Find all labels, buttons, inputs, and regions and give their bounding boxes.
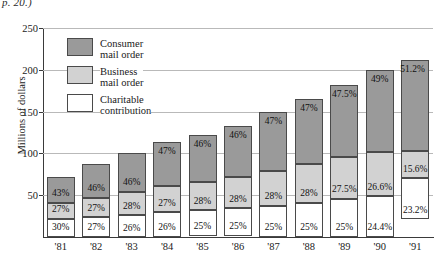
x-axis-tick-label: '91 [398,241,433,252]
legend-item-charity: Charitablecontribution [67,94,202,116]
bar-84: 47%27%26% [153,142,181,237]
legend-label: Charitablecontribution [100,94,151,116]
bar-segment-label: 25% [336,223,353,233]
bar-89: 47.5%27.5%25% [330,85,358,237]
bar-segment-charity: 26% [118,215,146,237]
bar-segment-consumer: 46% [189,135,217,182]
bar-segment-label: 24.4% [368,223,393,233]
chart-figure: p. 20.) Millions of dollars 501001502002… [0,0,446,264]
bar-segment-label: 26.6% [368,183,393,193]
x-axis-line [43,237,434,238]
bar-90: 49%26.6%24.4% [366,70,394,237]
bar-segment-charity: 23.2% [401,178,429,219]
bar-segment-label: 30% [52,223,69,233]
x-axis-tick-label: '83 [114,241,149,252]
bar-segment-label: 27% [87,204,104,214]
legend-label-line1: Consumer [100,38,143,49]
bar-segment-consumer: 46% [82,164,110,197]
legend-swatch-charity [67,94,93,112]
bar-segment-business: 27% [47,203,75,219]
bar-segment-label: 43% [52,189,69,199]
legend-label-line1: Business [100,66,143,77]
bar-81: 43%27%30% [47,177,75,237]
bar-segment-label: 46% [123,178,140,188]
x-axis-tick-label: '86 [220,241,255,252]
bar-83: 46%28%26% [118,153,146,237]
bar-segment-label: 27% [158,199,175,209]
bar-segment-consumer: 46% [118,153,146,191]
legend-label-line2: mail order [100,49,143,60]
y-axis-tick-label: 250 [22,23,38,34]
bar-segment-business: 28% [295,164,323,203]
legend-swatch-business [67,66,93,84]
bar-segment-business: 28% [259,171,287,206]
bar-segment-label: 27.5% [332,185,357,195]
y-axis-tick-label: 100 [22,148,38,159]
bar-segment-label: 25% [229,222,246,232]
bar-segment-label: 25% [265,223,282,233]
bar-91: 51.2%15.6%23.2% [401,60,429,237]
bar-segment-label: 28% [123,202,140,212]
legend-swatch-consumer [67,38,93,56]
bar-segment-label: 47% [158,147,175,157]
bar-segment-label: 28% [229,195,246,205]
bar-segment-charity: 30% [47,219,75,237]
bar-segment-label: 28% [194,197,211,207]
bar-segment-consumer: 47.5% [330,85,358,157]
bar-segment-label: 26% [123,224,140,234]
bar-segment-label: 26% [158,223,175,233]
bar-segment-charity: 24.4% [366,196,394,237]
y-axis-tick-label: 200 [22,64,38,75]
bar-segment-label: 15.6% [403,165,428,175]
legend-item-consumer: Consumermail order [67,38,202,60]
bar-segment-charity: 25% [189,210,217,235]
bar-segment-consumer: 47% [259,112,287,171]
bar-segment-business: 15.6% [401,151,429,179]
bar-segment-business: 28% [224,177,252,208]
y-axis-tick-label: 50 [28,190,39,201]
bar-segment-label: 25% [300,223,317,233]
bar-segment-label: 47% [265,117,282,127]
bar-segment-label: 28% [300,189,317,199]
legend-label-line2: contribution [100,105,151,116]
bar-segment-charity: 25% [259,206,287,237]
bar-segment-business: 27% [153,186,181,212]
bar-segment-business: 27% [82,198,110,218]
bar-segment-business: 26.6% [366,152,394,196]
chart-legend: Consumermail orderBusinessmail orderChar… [67,38,202,122]
x-axis-tick-label: '81 [43,241,78,252]
figure-caption: p. 20.) [2,0,32,8]
bar-segment-consumer: 43% [47,177,75,203]
x-axis-tick-label: '87 [256,241,291,252]
bar-segment-label: 46% [229,131,246,141]
x-axis-tick-labels: '81'82'83'84'85'86'87'88'89'90'91 [43,241,433,261]
x-axis-tick-label: '84 [149,241,184,252]
bar-segment-label: 47.5% [332,90,357,100]
x-axis-tick-label: '89 [327,241,362,252]
legend-label-line1: Charitable [100,94,151,105]
legend-item-business: Businessmail order [67,66,202,88]
bar-88: 47%28%25% [295,99,323,237]
legend-label-line2: mail order [100,77,143,88]
y-axis-tick-label: 150 [22,106,38,117]
bar-segment-label: 27% [52,205,69,215]
legend-label: Businessmail order [100,66,143,88]
bar-segment-charity: 26% [153,212,181,237]
bar-segment-charity: 27% [82,217,110,237]
bar-segment-business: 28% [189,182,217,211]
bar-segment-label: 46% [87,184,104,194]
bar-segment-charity: 25% [295,203,323,237]
bar-segment-consumer: 51.2% [401,60,429,151]
bar-segment-label: 51.2% [400,65,425,75]
bar-segment-label: 27% [87,223,104,233]
x-axis-tick-label: '88 [291,241,326,252]
bar-segment-label: 47% [300,104,317,114]
bar-85: 46%28%25% [189,135,217,237]
bar-82: 46%27%27% [82,164,110,237]
bar-segment-charity: 25% [224,208,252,236]
bar-segment-business: 27.5% [330,157,358,199]
bar-86: 46%28%25% [224,126,252,237]
bar-segment-label: 49% [371,75,388,85]
bar-segment-charity: 25% [330,199,358,237]
bar-segment-label: 46% [194,140,211,150]
